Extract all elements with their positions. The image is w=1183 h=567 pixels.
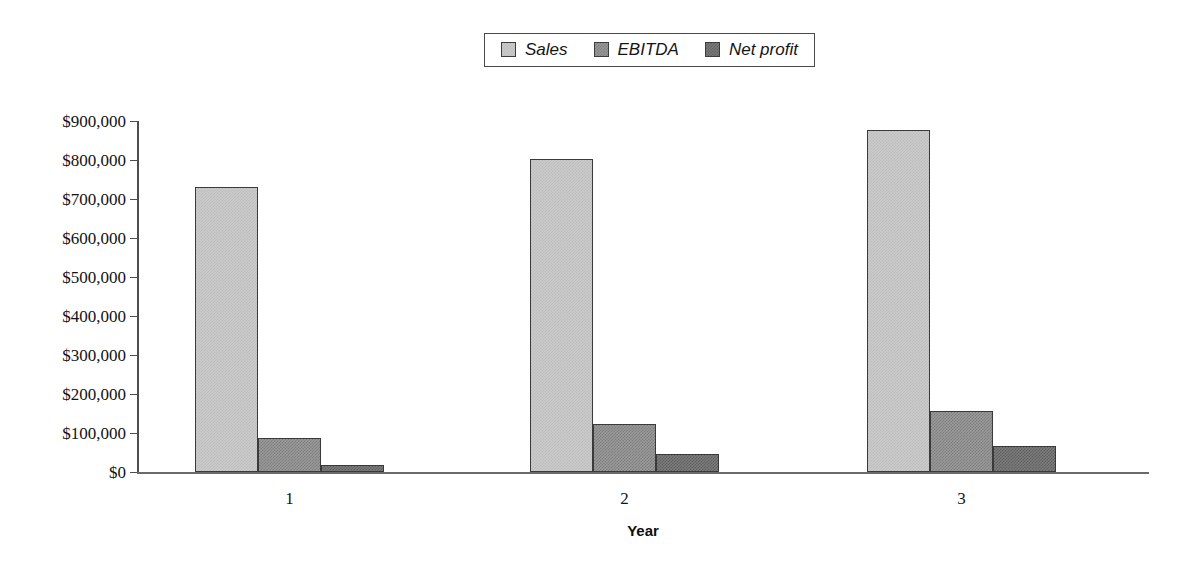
y-axis-tick-mark	[130, 394, 137, 395]
x-axis-line	[137, 472, 1149, 474]
x-axis-tick-label-1: 1	[285, 490, 294, 507]
y-axis-tick-mark	[130, 316, 137, 317]
bar-sales-year-3	[867, 130, 930, 472]
legend-item-ebitda: EBITDA	[594, 41, 679, 58]
y-axis-tick-label: $700,000	[62, 191, 126, 208]
chart-plot-area: $0$100,000$200,000$300,000$400,000$500,0…	[137, 121, 1149, 472]
y-axis-tick-label: $200,000	[62, 386, 126, 403]
x-axis-title: Year	[137, 523, 1149, 538]
y-axis-tick-label: $100,000	[62, 425, 126, 442]
y-axis-tick-mark	[130, 160, 137, 161]
chart-legend: Sales EBITDA Net profit	[484, 33, 815, 67]
y-axis-tick-mark	[130, 277, 137, 278]
legend-swatch-net-profit-icon	[705, 42, 720, 57]
y-axis-line	[137, 121, 139, 472]
y-axis-tick-mark	[130, 433, 137, 434]
legend-label-ebitda: EBITDA	[618, 41, 679, 58]
y-axis-tick-label: $600,000	[62, 230, 126, 247]
legend-swatch-sales-icon	[501, 42, 516, 57]
y-axis-tick-mark	[130, 472, 137, 473]
x-axis-tick-label-2: 2	[620, 490, 629, 507]
bar-sales-year-2	[530, 159, 593, 472]
bar-ebitda-year-2	[593, 424, 656, 472]
y-axis-tick-label: $800,000	[62, 152, 126, 169]
legend-item-sales: Sales	[501, 41, 568, 58]
y-axis-tick-mark	[130, 238, 137, 239]
legend-label-sales: Sales	[525, 41, 568, 58]
y-axis-tick-label: $0	[109, 464, 126, 481]
y-axis-tick-mark	[130, 199, 137, 200]
bar-net-profit-year-2	[656, 454, 719, 472]
y-axis-tick-label: $500,000	[62, 269, 126, 286]
legend-item-net-profit: Net profit	[705, 41, 798, 58]
x-axis-tick-label-3: 3	[957, 490, 966, 507]
bar-ebitda-year-1	[258, 438, 321, 472]
y-axis-tick-mark	[130, 121, 137, 122]
y-axis-tick-label: $300,000	[62, 347, 126, 364]
y-axis-tick-label: $400,000	[62, 308, 126, 325]
legend-swatch-ebitda-icon	[594, 42, 609, 57]
bar-net-profit-year-3	[993, 446, 1056, 472]
bar-ebitda-year-3	[930, 411, 993, 472]
y-axis-tick-mark	[130, 355, 137, 356]
y-axis-tick-label: $900,000	[62, 113, 126, 130]
bar-sales-year-1	[195, 187, 258, 472]
legend-label-net-profit: Net profit	[729, 41, 798, 58]
bar-net-profit-year-1	[321, 465, 384, 472]
